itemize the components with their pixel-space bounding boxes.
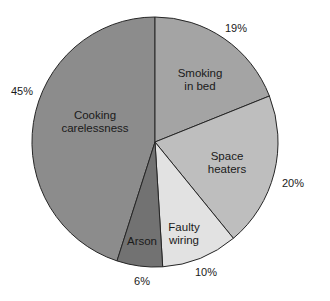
label-arson: Arson xyxy=(127,235,157,247)
pct-faulty-wiring: 10% xyxy=(195,266,217,278)
label-faulty-wiring-line2: wiring xyxy=(168,234,199,246)
pct-cooking-carelessness: 45% xyxy=(11,85,33,97)
label-cooking-line1: Cooking xyxy=(74,109,116,121)
pct-arson: 6% xyxy=(134,275,150,287)
label-smoking-line1: Smoking xyxy=(178,67,223,79)
label-space-heaters-line1: Space xyxy=(211,150,244,162)
pct-space-heaters: 20% xyxy=(282,177,304,189)
pct-smoking-in-bed: 19% xyxy=(225,22,247,34)
label-faulty-wiring-line1: Faulty xyxy=(168,221,200,233)
label-smoking-line2: in bed xyxy=(184,80,215,92)
label-cooking-line2: carelessness xyxy=(61,122,128,134)
label-space-heaters-line2: heaters xyxy=(208,163,247,175)
pie-slices xyxy=(32,17,278,267)
pie-chart: Smoking in bed Space heaters Faulty wiri… xyxy=(0,0,330,301)
